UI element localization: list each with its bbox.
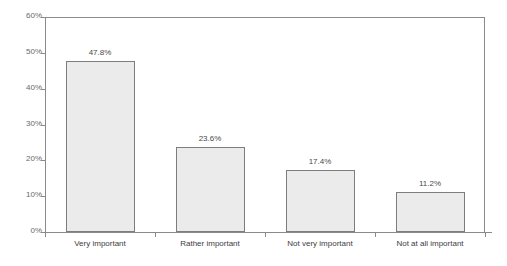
x-axis-category-label: Not very important xyxy=(265,239,375,248)
bar-chart: 0%10%20%30%40%50%60% 47.8%23.6%17.4%11.2… xyxy=(0,0,507,266)
y-axis-tick-label: 10% xyxy=(26,190,42,199)
y-axis-tick-label: 40% xyxy=(26,83,42,92)
bar-value-label: 47.8% xyxy=(45,48,155,57)
x-axis-category-label: Rather important xyxy=(155,239,265,248)
x-axis-category-label: Not at all important xyxy=(375,239,485,248)
bar-value-label: 11.2% xyxy=(375,179,485,188)
bar-value-label: 17.4% xyxy=(265,157,375,166)
y-axis-tick-label: 30% xyxy=(26,119,42,128)
x-axis-tick-mark xyxy=(265,232,266,237)
x-axis-tick-mark xyxy=(375,232,376,237)
bar xyxy=(66,61,135,232)
bar xyxy=(396,192,465,232)
bar xyxy=(176,147,245,232)
y-axis-tick-label: 0% xyxy=(30,226,42,235)
y-axis-tick-label: 20% xyxy=(26,154,42,163)
x-axis-category-label: Very important xyxy=(45,239,155,248)
y-axis-tick-label: 50% xyxy=(26,47,42,56)
x-axis-tick-mark xyxy=(485,232,486,237)
x-axis-tick-mark xyxy=(45,232,46,237)
x-axis-line xyxy=(45,232,492,233)
x-axis-tick-mark xyxy=(155,232,156,237)
bar-value-label: 23.6% xyxy=(155,134,265,143)
bar xyxy=(286,170,355,232)
y-axis-tick-label: 60% xyxy=(26,11,42,20)
